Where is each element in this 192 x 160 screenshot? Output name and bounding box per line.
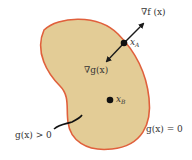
point-a-sub: A bbox=[135, 41, 139, 48]
point-b-label: xB bbox=[116, 95, 126, 105]
point-b-dot bbox=[107, 97, 114, 104]
boundary-constraint-label: g(x) = 0 bbox=[146, 125, 183, 134]
grad-g-label: ∇g(x) bbox=[84, 66, 108, 75]
point-a-dot bbox=[121, 40, 128, 47]
grad-f-label: ∇f (x) bbox=[141, 8, 166, 17]
inside-constraint-label: g(x) > 0 bbox=[15, 131, 52, 140]
point-a-label: xA bbox=[130, 38, 139, 48]
constraint-diagram: ∇f (x) xA ∇g(x) xB g(x) > 0 g(x) = 0 bbox=[0, 0, 192, 160]
point-b-sub: B bbox=[121, 98, 125, 105]
